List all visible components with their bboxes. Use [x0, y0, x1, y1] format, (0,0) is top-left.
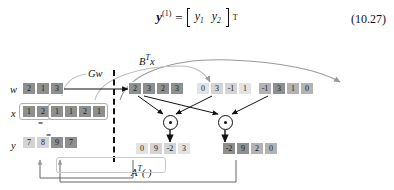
arrow-right-to-right-circle [232, 96, 268, 114]
vector-y-cell: 7 [64, 136, 78, 149]
vector-right-cell: 3 [272, 82, 286, 95]
equation-10-27: y(1) = y1 y2 T [0, 8, 394, 27]
vector-entry-2: y2 [208, 9, 225, 25]
vector-y-cell: 8 [36, 136, 50, 149]
label-gw: Gw [88, 68, 103, 79]
vector-product-right-cell: 2 [250, 142, 264, 155]
vector-w-cell: 1 [36, 82, 50, 95]
vector-mid-cell: -1 [224, 82, 238, 95]
vector-gw-out: 2323 [128, 82, 184, 95]
dashed-divider [113, 70, 115, 162]
equation-lhs: y(1) [156, 9, 171, 25]
curve-w-up [62, 74, 86, 96]
vector-product-left-cell: 0 [135, 142, 149, 155]
vector-product-left-cell: 3 [177, 142, 191, 155]
equation-number: (10.27) [351, 12, 386, 27]
arrow-gwout-to-right-circle [144, 96, 218, 114]
arrow-mid-to-left-circle [176, 96, 212, 114]
transpose-superscript: T [233, 13, 238, 22]
vector-w-cell: 3 [50, 82, 64, 95]
row-label-w: w [10, 84, 17, 95]
vector-right-cell: 1 [286, 82, 300, 95]
vector-right-cell: -1 [258, 82, 272, 95]
hadamard-product-right-icon [218, 115, 233, 130]
vector-y: 7897 [22, 136, 78, 149]
equation-lhs-superscript: (1) [162, 9, 171, 18]
vector-gw-out-cell: 2 [156, 82, 170, 95]
vector-product-right: -2920 [222, 142, 278, 155]
vector-mid-cell: 3 [210, 82, 224, 95]
row-vector-bracket: y1 y2 [187, 8, 229, 27]
vector-mid: 03-11 [196, 82, 252, 95]
label-btx: BTx [139, 53, 155, 67]
vector-mid-cell: 1 [238, 82, 252, 95]
hadamard-product-left-icon [163, 115, 178, 130]
vector-gw-out-cell: 3 [142, 82, 156, 95]
vector-y-cell: 9 [50, 136, 64, 149]
group-box-at-region [56, 157, 166, 173]
vector-entry-1: y1 [191, 9, 208, 25]
vector-product-right-cell: 0 [264, 142, 278, 155]
vector-product-right-cell: -2 [222, 142, 236, 155]
vector-mid-cell: 0 [196, 82, 210, 95]
vector-product-left-cell: 9 [149, 142, 163, 155]
vector-product-left-cell: -2 [163, 142, 177, 155]
vector-product-left: 09-23 [135, 142, 191, 155]
row-label-y: y [11, 140, 16, 151]
vector-product-right-cell: 9 [236, 142, 250, 155]
equals-sign: = [175, 10, 182, 26]
vector-right-cell: 0 [300, 82, 314, 95]
figure-canvas: y(1) = y1 y2 T (10.27) [0, 0, 394, 190]
vector-gw-out-cell: 3 [170, 82, 184, 95]
vector-w: 213 [22, 82, 64, 95]
vector-gw-out-cell: 2 [128, 82, 142, 95]
arrow-gwout-to-left-circle [138, 96, 163, 114]
group-box-x-window [48, 103, 108, 120]
vector-x-cell: 1 [22, 105, 36, 118]
vector-y-cell: 7 [22, 136, 36, 149]
row-label-x: x [11, 108, 16, 119]
vector-w-cell: 2 [22, 82, 36, 95]
vector-right: -1310 [258, 82, 314, 95]
